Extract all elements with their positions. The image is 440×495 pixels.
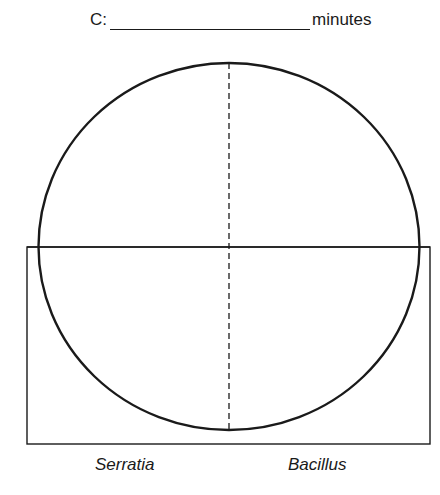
serratia-label: Serratia: [95, 455, 155, 475]
bacillus-label: Bacillus: [288, 455, 347, 475]
petri-plate-diagram: [0, 0, 440, 495]
